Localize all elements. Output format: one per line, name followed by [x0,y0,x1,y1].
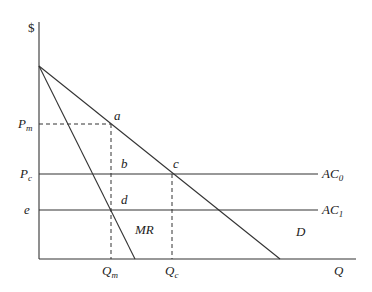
y-axis-label: $ [28,20,35,35]
point-b-label: b [121,156,128,171]
demand-curve [39,66,280,259]
point-d-label: d [121,192,128,207]
point-a-label: a [114,108,121,123]
ac1-label: AC1 [321,202,343,219]
ac0-label: AC0 [321,166,344,183]
point-c-label: c [173,156,179,171]
y-tick-e: e [24,202,30,217]
d-label: D [295,224,306,239]
mr-label: MR [134,222,154,237]
x-axis-label: Q [334,263,344,278]
monopoly-diagram: $ Q Pm Pc e Qm Qc a b c d MR D AC0 AC1 [0,0,372,292]
x-tick-qm: Qm [102,263,118,280]
x-tick-qc: Qc [165,263,178,280]
y-tick-pc: Pc [19,166,32,183]
y-tick-pm: Pm [17,116,33,133]
